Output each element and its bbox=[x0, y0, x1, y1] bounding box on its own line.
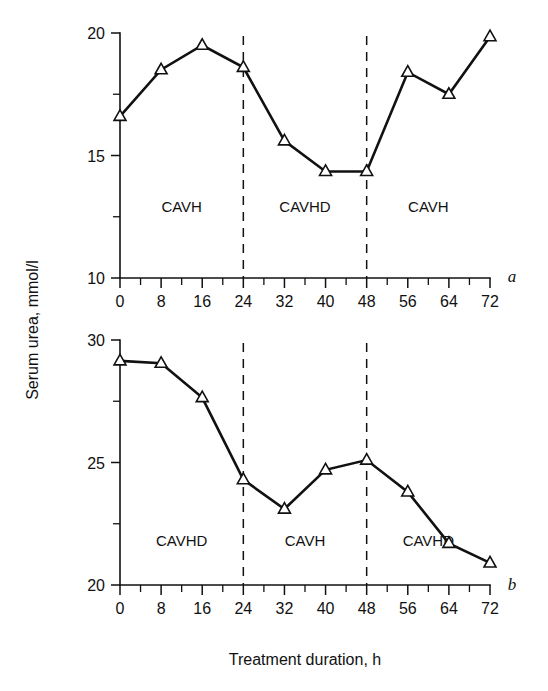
treatment-region-label: CAVHD bbox=[279, 198, 331, 215]
x-tick-label: 16 bbox=[193, 600, 211, 617]
series-line-serum-urea bbox=[120, 37, 490, 172]
y-tick-label: 25 bbox=[87, 455, 105, 472]
y-tick-label: 20 bbox=[87, 25, 105, 42]
data-point-marker bbox=[402, 66, 414, 77]
x-tick-label: 48 bbox=[358, 293, 376, 310]
treatment-region-label: CAVHD bbox=[156, 532, 208, 549]
chart-panel-a: 101520081624324048566472CAVHCAVHDCAVHa bbox=[87, 25, 516, 310]
x-tick-label: 8 bbox=[157, 600, 166, 617]
figure-container: Serum urea, mmol/l Treatment duration, h… bbox=[0, 0, 548, 691]
x-tick-label: 32 bbox=[276, 293, 294, 310]
data-point-marker bbox=[196, 39, 208, 50]
y-tick-label: 20 bbox=[87, 577, 105, 594]
x-axis-title: Treatment duration, h bbox=[229, 651, 381, 668]
x-tick-label: 72 bbox=[481, 600, 499, 617]
x-tick-label: 16 bbox=[193, 293, 211, 310]
data-point-marker bbox=[402, 485, 414, 496]
serum-urea-figure: Serum urea, mmol/l Treatment duration, h… bbox=[0, 0, 548, 691]
x-tick-label: 8 bbox=[157, 293, 166, 310]
y-tick-label: 15 bbox=[87, 148, 105, 165]
x-tick-label: 56 bbox=[399, 293, 417, 310]
chart-panel-b: 202530081624324048566472CAVHDCAVHCAVHDb bbox=[87, 332, 516, 617]
x-tick-label: 48 bbox=[358, 600, 376, 617]
data-point-marker bbox=[484, 30, 496, 41]
treatment-region-label: CAVH bbox=[408, 198, 449, 215]
x-tick-label: 64 bbox=[440, 293, 458, 310]
x-tick-label: 32 bbox=[276, 600, 294, 617]
x-tick-label: 0 bbox=[116, 600, 125, 617]
y-axis-title: Serum urea, mmol/l bbox=[24, 260, 41, 400]
treatment-region-label: CAVH bbox=[285, 532, 326, 549]
x-tick-label: 40 bbox=[317, 293, 335, 310]
x-tick-label: 24 bbox=[234, 600, 252, 617]
x-tick-label: 64 bbox=[440, 600, 458, 617]
data-point-marker bbox=[114, 354, 126, 365]
data-point-marker bbox=[237, 473, 249, 484]
x-tick-label: 0 bbox=[116, 293, 125, 310]
x-tick-label: 56 bbox=[399, 600, 417, 617]
y-tick-label: 10 bbox=[87, 270, 105, 287]
treatment-region-label: CAVH bbox=[161, 198, 202, 215]
x-tick-label: 24 bbox=[234, 293, 252, 310]
y-tick-label: 30 bbox=[87, 332, 105, 349]
panel-letter-a: a bbox=[508, 267, 517, 286]
x-tick-label: 40 bbox=[317, 600, 335, 617]
data-point-marker bbox=[361, 454, 373, 465]
x-tick-label: 72 bbox=[481, 293, 499, 310]
panel-letter-b: b bbox=[508, 575, 517, 594]
